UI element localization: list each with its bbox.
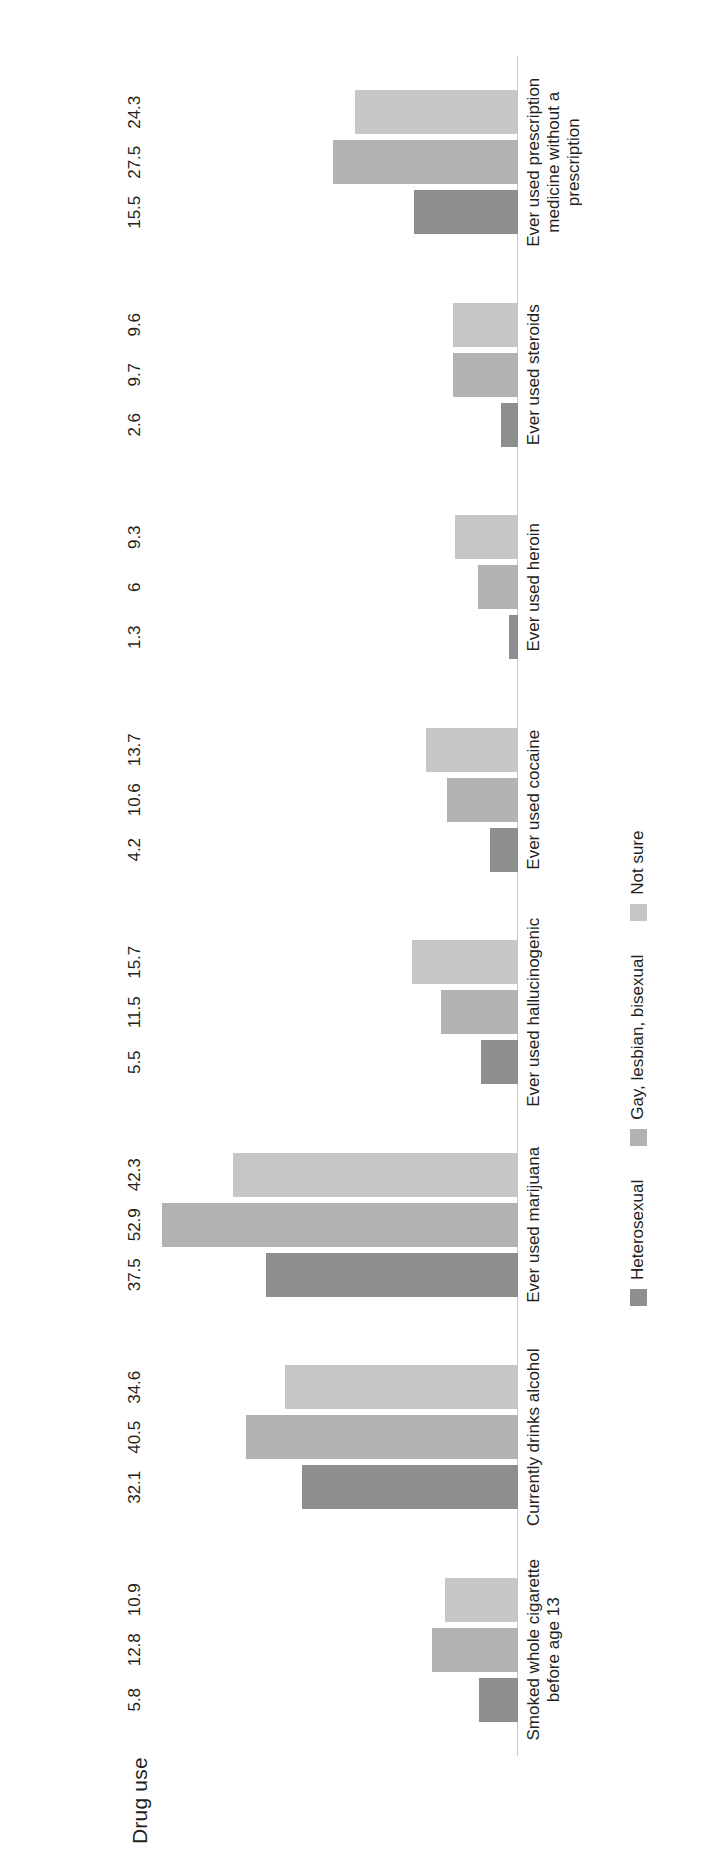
bar[interactable] (285, 1365, 518, 1409)
bar-group: 4.210.613.7 (148, 694, 518, 907)
category-label: Currently drinks alcohol (524, 1331, 584, 1544)
chart-legend: HeterosexualGay, lesbian, bisexualNot su… (628, 831, 648, 1306)
bar[interactable] (412, 940, 518, 984)
bar-value-label: 12.8 (126, 1633, 143, 1666)
bar-groups: 5.812.810.932.140.534.637.552.942.35.511… (148, 56, 518, 1756)
bar-group: 1.369.3 (148, 481, 518, 694)
bar-value-label: 24.3 (126, 96, 143, 129)
bar-group: 5.511.515.7 (148, 906, 518, 1119)
bar-with-label: 6 (148, 565, 518, 609)
bar-with-label: 34.6 (148, 1365, 518, 1409)
bar[interactable] (453, 353, 518, 397)
category-label: Ever used cocaine (524, 694, 584, 907)
bar[interactable] (266, 1253, 518, 1297)
bar[interactable] (447, 778, 518, 822)
bar[interactable] (490, 828, 518, 872)
bar-value-label: 42.3 (126, 1158, 143, 1191)
bar-value-label: 10.9 (126, 1583, 143, 1616)
bar[interactable] (233, 1153, 518, 1197)
bar-with-label: 9.6 (148, 303, 518, 347)
plot-area: 5.812.810.932.140.534.637.552.942.35.511… (148, 56, 518, 1756)
category-label: Ever used heroin (524, 481, 584, 694)
bar-with-label: 15.7 (148, 940, 518, 984)
bar-value-label: 2.6 (126, 413, 143, 437)
bar-value-label: 15.7 (126, 946, 143, 979)
bar-group-bars: 4.210.613.7 (148, 728, 518, 872)
bar[interactable] (481, 1040, 518, 1084)
bar-with-label: 32.1 (148, 1465, 518, 1509)
bar-group-bars: 2.69.79.6 (148, 303, 518, 447)
legend-item[interactable]: Not sure (628, 831, 648, 921)
bar-group: 2.69.79.6 (148, 269, 518, 482)
bar-with-label: 11.5 (148, 990, 518, 1034)
bar-with-label: 9.7 (148, 353, 518, 397)
bar-group-bars: 1.369.3 (148, 515, 518, 659)
bar[interactable] (478, 565, 518, 609)
rotated-figure-container: Drug use 5.812.810.932.140.534.637.552.9… (0, 0, 701, 1866)
bar-with-label: 37.5 (148, 1253, 518, 1297)
bar-with-label: 5.5 (148, 1040, 518, 1084)
legend-label: Heterosexual (628, 1180, 648, 1280)
bar[interactable] (246, 1415, 518, 1459)
bar[interactable] (333, 140, 518, 184)
bar-with-label: 4.2 (148, 828, 518, 872)
bar-with-label: 10.9 (148, 1578, 518, 1622)
bar-value-label: 6 (126, 583, 143, 592)
category-label: Ever used prescription medicine without … (524, 56, 584, 269)
bar-with-label: 10.6 (148, 778, 518, 822)
bar-group-bars: 5.812.810.9 (148, 1578, 518, 1722)
bar-with-label: 5.8 (148, 1678, 518, 1722)
bar-value-label: 13.7 (126, 733, 143, 766)
bar-with-label: 24.3 (148, 90, 518, 134)
legend-item[interactable]: Heterosexual (628, 1180, 648, 1306)
bar-with-label: 40.5 (148, 1415, 518, 1459)
category-label: Ever used steroids (524, 269, 584, 482)
bar[interactable] (453, 303, 518, 347)
legend-item[interactable]: Gay, lesbian, bisexual (628, 955, 648, 1146)
category-label: Ever used hallucinogenic (524, 906, 584, 1119)
bar-group-bars: 32.140.534.6 (148, 1365, 518, 1509)
bar-with-label: 2.6 (148, 403, 518, 447)
bar-value-label: 32.1 (126, 1471, 143, 1504)
bar[interactable] (432, 1628, 518, 1672)
bar-group: 15.527.524.3 (148, 56, 518, 269)
chart-title: Drug use (128, 1757, 152, 1844)
bar-with-label: 1.3 (148, 615, 518, 659)
bar[interactable] (162, 1203, 518, 1247)
bar[interactable] (414, 190, 518, 234)
bar-value-label: 52.9 (126, 1208, 143, 1241)
bar-value-label: 5.8 (126, 1688, 143, 1712)
bar[interactable] (509, 615, 518, 659)
bar-value-label: 9.6 (126, 313, 143, 337)
bar-group: 5.812.810.9 (148, 1544, 518, 1757)
bar[interactable] (455, 515, 518, 559)
bar[interactable] (441, 990, 518, 1034)
chart-figure: Drug use 5.812.810.932.140.534.637.552.9… (0, 0, 701, 1866)
bar-value-label: 15.5 (126, 196, 143, 229)
bar[interactable] (426, 728, 518, 772)
bar-with-label: 27.5 (148, 140, 518, 184)
bar-with-label: 13.7 (148, 728, 518, 772)
bar-value-label: 9.3 (126, 525, 143, 549)
legend-swatch-icon (630, 1129, 647, 1146)
bar[interactable] (302, 1465, 518, 1509)
bar-with-label: 42.3 (148, 1153, 518, 1197)
legend-label: Not sure (628, 831, 648, 895)
bar-value-label: 27.5 (126, 146, 143, 179)
bar-group: 37.552.942.3 (148, 1119, 518, 1332)
bar[interactable] (501, 403, 518, 447)
category-label: Ever used marijuana (524, 1119, 584, 1332)
bar[interactable] (479, 1678, 518, 1722)
bar[interactable] (355, 90, 518, 134)
bar-with-label: 12.8 (148, 1628, 518, 1672)
bar[interactable] (445, 1578, 518, 1622)
bar-group-bars: 37.552.942.3 (148, 1153, 518, 1297)
bar-value-label: 10.6 (126, 783, 143, 816)
legend-swatch-icon (630, 904, 647, 921)
bar-value-label: 40.5 (126, 1421, 143, 1454)
legend-swatch-icon (630, 1289, 647, 1306)
bar-value-label: 9.7 (126, 363, 143, 387)
bar-value-label: 4.2 (126, 838, 143, 862)
bar-value-label: 34.6 (126, 1371, 143, 1404)
bar-with-label: 9.3 (148, 515, 518, 559)
